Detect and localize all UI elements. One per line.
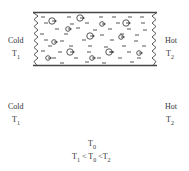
top-cold-label: Cold: [8, 36, 24, 46]
bottom-hot-text: Hot: [165, 102, 177, 111]
top-slab-right-break: [152, 13, 157, 66]
top-t1-label: T1: [12, 49, 20, 62]
top-hot-label: Hot: [165, 36, 177, 46]
bottom-hot-label: Hot: [165, 102, 177, 112]
top-hot-text: Hot: [165, 36, 177, 45]
top-slab: [33, 13, 157, 66]
bottom-cold-text: Cold: [8, 102, 24, 111]
top-t2-label: T2: [166, 49, 174, 62]
bottom-cold-label: Cold: [8, 102, 24, 112]
bottom-t2-label: T2: [166, 115, 174, 128]
temperature-relation: T1 < T0 <T2: [72, 152, 111, 165]
top-cold-text: Cold: [8, 36, 24, 45]
divider-t0-label: T0: [88, 139, 96, 152]
top-slab-left-break: [33, 13, 38, 66]
bottom-t1-label: T1: [12, 115, 20, 128]
top-slab-particles: [46, 15, 143, 61]
